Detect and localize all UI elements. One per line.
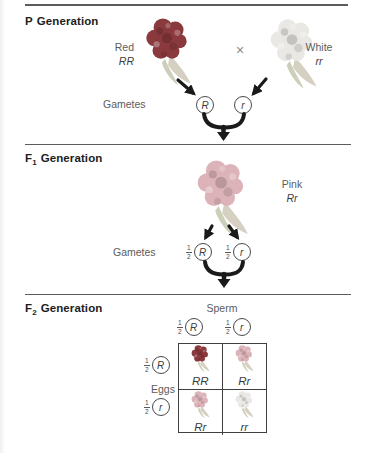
fraction-one-half: 12: [144, 357, 150, 373]
p-gamete-circle-r: r: [234, 96, 252, 114]
allele-label: r: [240, 247, 243, 258]
f2-sperm-circle-r: r: [233, 318, 251, 336]
heading-word: Generation: [41, 302, 103, 314]
punnett-square: RR Rr Rr rr: [178, 343, 267, 433]
f2-sperm-circle-R: R: [185, 318, 203, 336]
f1-gamete-pair-r: 12 r: [225, 243, 251, 261]
white-parent-label-block: White rr: [297, 40, 341, 68]
fraction-one-half: 12: [225, 319, 231, 335]
red-parent-label-block: Red RR: [96, 40, 134, 68]
f2-egg-gamete-r: 12 r: [144, 398, 170, 416]
figure-canvas: PGeneration Red RR × White rr Gametes R …: [0, 0, 376, 453]
heading-subscript: 1: [32, 158, 37, 167]
f1-gamete-pair-R: 12 R: [186, 243, 212, 261]
page-edge-shadow: [0, 0, 5, 453]
fraction-one-half: 12: [186, 244, 192, 260]
p-gamete-circle-R: R: [196, 96, 214, 114]
heading-word: Generation: [37, 15, 99, 27]
cell-flower-image: [187, 344, 213, 374]
pink-offspring-genotype: Rr: [269, 191, 315, 205]
cell-flower-image: [231, 344, 257, 374]
cell-genotype: Rr: [194, 421, 206, 433]
p-generation-heading: PGeneration: [25, 15, 99, 30]
punnett-cell-RR: RR: [179, 344, 223, 390]
p-merge-arrowhead-icon: [217, 132, 230, 141]
section-divider-2: [25, 294, 351, 295]
f1-arrow-right: [229, 226, 237, 237]
allele-label: r: [241, 100, 244, 111]
f2-egg-gamete-R: 12 R: [144, 356, 170, 374]
red-parent-label: Red: [96, 40, 134, 54]
p-cross-arrow-right: [254, 79, 266, 93]
pink-offspring-label: Pink: [269, 177, 315, 191]
allele-label: R: [190, 322, 197, 333]
f1-generation-heading: F1Generation: [25, 152, 102, 167]
f1-merge-arrowhead-icon: [218, 279, 231, 288]
section-divider-1: [25, 144, 351, 145]
p-cross-arrow-left: [178, 80, 193, 93]
allele-label: R: [199, 247, 206, 258]
cell-flower-image: [231, 390, 257, 420]
cell-genotype: rr: [240, 421, 248, 433]
p-merge-y: [204, 114, 244, 128]
red-parent-flower-image: [136, 15, 198, 90]
cross-symbol: ×: [236, 42, 244, 58]
heading-subscript: 2: [32, 308, 37, 317]
red-parent-genotype: RR: [96, 54, 134, 68]
fraction-one-half: 12: [177, 319, 183, 335]
fraction-one-half: 12: [225, 244, 231, 260]
top-rule: [25, 4, 348, 6]
sperm-label: Sperm: [190, 302, 254, 315]
f2-egg-circle-r: r: [152, 398, 170, 416]
allele-label: R: [201, 100, 208, 111]
allele-label: r: [159, 402, 162, 413]
heading-word: Generation: [41, 152, 103, 164]
heading-letter: P: [25, 15, 33, 27]
punnett-cell-Rr-top: Rr: [223, 344, 267, 390]
allele-label: r: [240, 322, 243, 333]
p-gametes-label: Gametes: [103, 98, 146, 111]
f1-gamete-circle-R: R: [194, 243, 212, 261]
cell-genotype: RR: [192, 375, 209, 387]
allele-label: R: [157, 360, 164, 371]
cell-genotype: Rr: [238, 375, 250, 387]
white-parent-label: White: [297, 40, 341, 54]
f2-generation-heading: F2Generation: [25, 302, 102, 317]
f1-arrow-left: [206, 226, 212, 237]
pink-offspring-flower-image: [186, 156, 256, 242]
eggs-label: Eggs: [151, 383, 175, 396]
punnett-cell-rr: rr: [223, 390, 267, 435]
f1-merge-y: [205, 262, 243, 275]
f2-egg-circle-R: R: [152, 356, 170, 374]
pink-offspring-label-block: Pink Rr: [269, 177, 315, 205]
f1-gametes-label: Gametes: [113, 246, 156, 259]
f2-sperm-gamete-r: 12 r: [225, 318, 251, 336]
punnett-cell-Rr-bottom: Rr: [179, 390, 223, 435]
f1-gamete-circle-r: r: [233, 243, 251, 261]
white-parent-genotype: rr: [297, 54, 341, 68]
cell-flower-image: [187, 390, 213, 420]
f2-sperm-gamete-R: 12 R: [177, 318, 203, 336]
fraction-one-half: 12: [144, 399, 150, 415]
